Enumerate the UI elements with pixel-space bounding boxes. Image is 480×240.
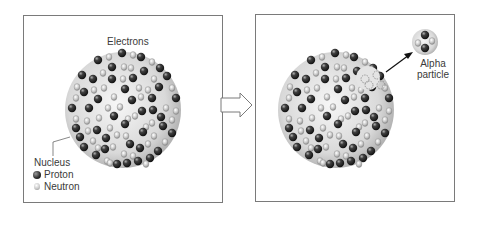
- electrons-label: Electrons: [107, 36, 149, 47]
- alpha-label-line2: particle: [411, 69, 455, 80]
- legend-item-neutron: Neutron: [33, 181, 80, 192]
- legend-item-proton: Proton: [33, 169, 73, 180]
- daughter-nucleus: [278, 49, 394, 168]
- legend-label-proton: Proton: [44, 169, 73, 180]
- legend-label-neutron: Neutron: [44, 181, 80, 192]
- neutron-icon: [34, 183, 40, 190]
- alpha-label-line1: Alpha: [411, 58, 455, 69]
- alpha-particle-label: Alpha particle: [411, 58, 455, 80]
- emission-arrow-icon: [386, 52, 413, 72]
- alpha-particle: [412, 29, 438, 55]
- nucleus-label: Nucleus: [34, 157, 70, 168]
- proton-icon: [33, 171, 41, 179]
- transition-arrow-icon: [221, 93, 252, 117]
- nucleus-leader-line: [53, 137, 70, 156]
- parent-nucleus: [65, 49, 181, 168]
